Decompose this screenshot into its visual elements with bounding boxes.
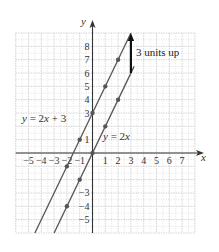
x-tick-label: −5 [23, 155, 34, 166]
data-point [78, 137, 82, 141]
data-point [65, 204, 69, 208]
equation-label-base: y = 2x [102, 130, 130, 142]
data-point [103, 124, 107, 128]
y-tick-label: 7 [85, 54, 90, 65]
y-tick-label: 1 [85, 134, 90, 145]
y-axis-label: y [80, 15, 86, 27]
data-point [116, 97, 120, 101]
y-tick-label: 3 [85, 108, 90, 119]
data-point [116, 57, 120, 61]
x-tick-label: 4 [141, 155, 146, 166]
y-tick-label: 4 [85, 94, 90, 105]
y-tick-label: 5 [85, 81, 90, 92]
x-tick-label: 2 [116, 155, 121, 166]
x-tick-label: 1 [103, 155, 108, 166]
x-tick-label: −1 [74, 155, 85, 166]
x-tick-label: −3 [49, 155, 60, 166]
y-tick-label: −3 [79, 187, 90, 198]
x-tick-label: 5 [154, 155, 159, 166]
shift-annotation-label: 3 units up [136, 46, 180, 58]
equation-label-shifted: y = 2x + 3 [21, 112, 67, 124]
data-point [90, 111, 94, 115]
x-tick-label: 3 [128, 155, 133, 166]
x-axis-label: x [200, 151, 206, 163]
y-tick-label: −4 [79, 201, 90, 212]
x-tick-label: −4 [36, 155, 47, 166]
y-tick-label: 6 [85, 68, 90, 79]
data-point [65, 164, 69, 168]
y-tick-label: −5 [79, 214, 90, 225]
x-tick-label: 7 [180, 155, 185, 166]
y-tick-label: 8 [85, 41, 90, 52]
coordinate-plane: −5−4−3−2−112345678765431−3−4−5 3 units u… [0, 0, 219, 252]
data-point [78, 177, 82, 181]
x-tick-label: 6 [167, 155, 172, 166]
annotations: 3 units up [128, 33, 180, 73]
data-point [103, 84, 107, 88]
data-point [90, 151, 94, 155]
